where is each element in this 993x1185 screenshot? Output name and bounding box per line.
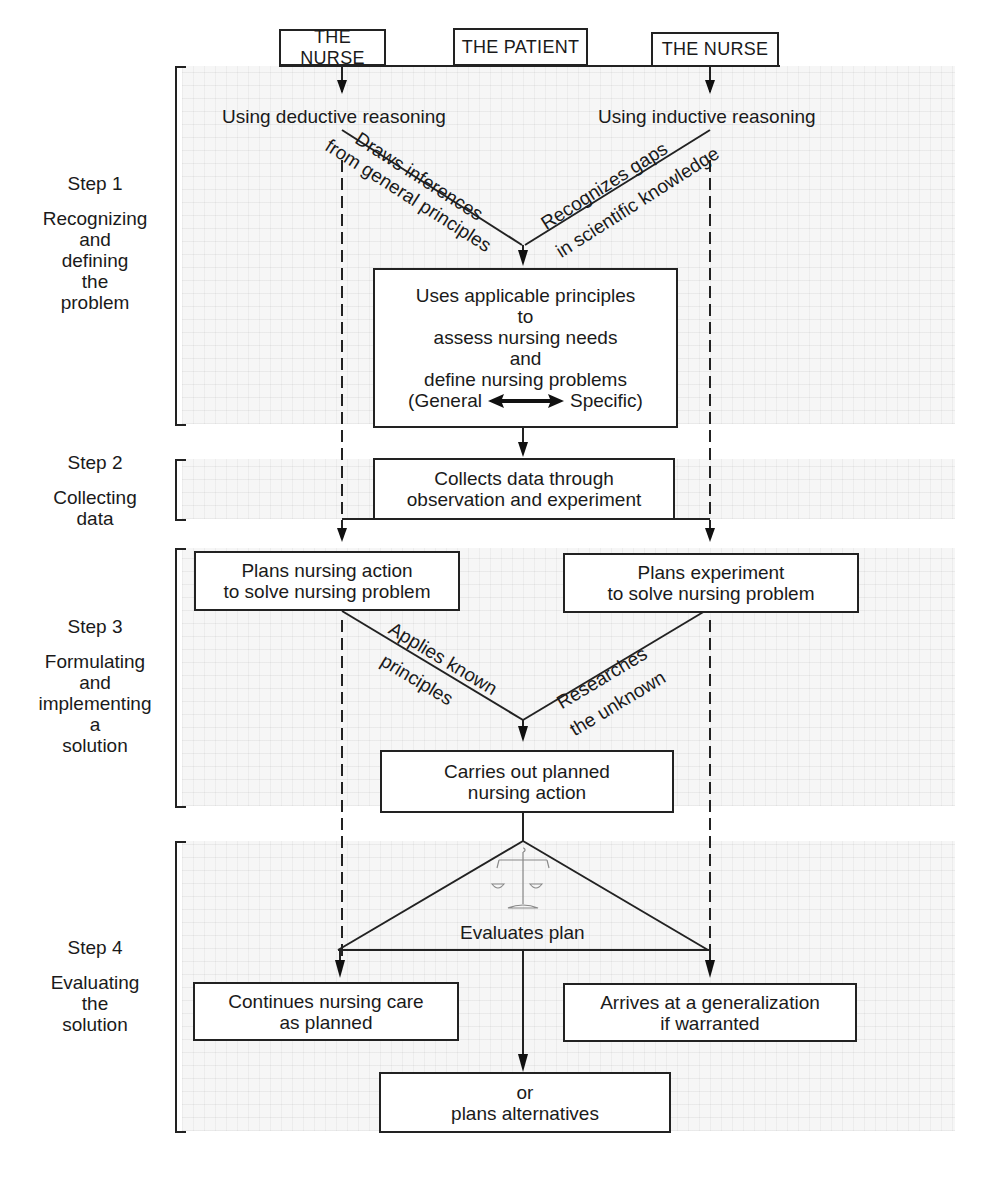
alternatives-line: or xyxy=(517,1082,534,1103)
continue-care-box: Continues nursing care as planned xyxy=(193,982,459,1041)
generalization-box: Arrives at a generalization if warranted xyxy=(563,983,857,1042)
plan-action-box: Plans nursing action to solve nursing pr… xyxy=(194,551,460,611)
step-line: solution xyxy=(20,735,170,756)
step-line: defining xyxy=(20,250,170,271)
step2-label: Step 2 Collecting data xyxy=(20,452,170,529)
assess-line: define nursing problems xyxy=(424,369,627,390)
step3-label: Step 3 Formulating and implementing a so… xyxy=(20,616,170,756)
step-line: and xyxy=(20,672,170,693)
assess-line: assess nursing needs xyxy=(434,327,618,348)
general-label: (General xyxy=(408,390,482,411)
alternatives-line: plans alternatives xyxy=(451,1103,599,1124)
nurse-box-right: THE NURSE xyxy=(651,32,779,67)
patient-label: THE PATIENT xyxy=(462,37,580,58)
plan-experiment-box: Plans experiment to solve nursing proble… xyxy=(563,553,859,613)
step1-label: Step 1 Recognizing and defining the prob… xyxy=(20,173,170,313)
assess-line: to xyxy=(518,306,534,327)
step-line: Collecting xyxy=(20,487,170,508)
step-line: implementing xyxy=(20,693,170,714)
carry-out-line: Carries out planned xyxy=(444,761,610,782)
inductive-label: Using inductive reasoning xyxy=(598,106,816,128)
step-number: Step 2 xyxy=(20,452,170,473)
step4-label: Step 4 Evaluating the solution xyxy=(20,937,170,1035)
collect-line: observation and experiment xyxy=(407,489,641,510)
assess-line: and xyxy=(510,348,542,369)
specific-label: Specific) xyxy=(570,390,643,411)
general-specific-row: (General Specific) xyxy=(408,390,643,411)
plan-action-line: to solve nursing problem xyxy=(224,581,431,602)
alternatives-box: or plans alternatives xyxy=(379,1072,671,1133)
deductive-label: Using deductive reasoning xyxy=(222,106,446,128)
plan-experiment-line: Plans experiment xyxy=(638,562,785,583)
step-line: and xyxy=(20,229,170,250)
continue-line: Continues nursing care xyxy=(228,991,423,1012)
step-number: Step 3 xyxy=(20,616,170,637)
plan-experiment-line: to solve nursing problem xyxy=(608,583,815,604)
step-line: data xyxy=(20,508,170,529)
step-line: a xyxy=(20,714,170,735)
step-line: Recognizing xyxy=(20,208,170,229)
assess-line: Uses applicable principles xyxy=(416,285,636,306)
carry-out-line: nursing action xyxy=(468,782,586,803)
continue-line: as planned xyxy=(280,1012,373,1033)
step-line: Evaluating xyxy=(20,972,170,993)
evaluates-plan-label: Evaluates plan xyxy=(460,922,585,944)
nurse-label: THE NURSE xyxy=(662,39,769,60)
nurse-label: THE NURSE xyxy=(281,27,384,69)
step-line: Formulating xyxy=(20,651,170,672)
patient-box: THE PATIENT xyxy=(453,28,588,66)
collect-data-box: Collects data through observation and ex… xyxy=(373,458,675,520)
step-number: Step 4 xyxy=(20,937,170,958)
step-line: solution xyxy=(20,1014,170,1035)
double-arrow-icon xyxy=(486,393,566,409)
step-line: problem xyxy=(20,292,170,313)
nurse-box-left: THE NURSE xyxy=(279,29,386,66)
carry-out-box: Carries out planned nursing action xyxy=(380,750,674,813)
generalize-line: Arrives at a generalization xyxy=(600,992,820,1013)
step-number: Step 1 xyxy=(20,173,170,194)
step-line: the xyxy=(20,271,170,292)
plan-action-line: Plans nursing action xyxy=(241,560,412,581)
generalize-line: if warranted xyxy=(660,1013,759,1034)
balance-scale-icon xyxy=(490,846,556,916)
assess-needs-box: Uses applicable principles to assess nur… xyxy=(373,268,678,428)
collect-line: Collects data through xyxy=(434,468,614,489)
step-line: the xyxy=(20,993,170,1014)
